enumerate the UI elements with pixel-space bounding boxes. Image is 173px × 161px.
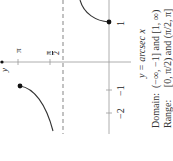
half-pi-denominator: 2 [53, 51, 60, 55]
tick-neg1-label: −1 [116, 85, 126, 96]
tick-neg2-label: −2 [116, 108, 126, 119]
caption-domain-value: (−∞, −1] and [1, ∞) [150, 10, 161, 88]
caption-range: Range: [0, π/2) and (π/2, π] [163, 9, 173, 128]
caption-function: y = arcsec x [137, 29, 147, 78]
caption-domain: Domain: (−∞, −1] and [1, ∞) [151, 10, 161, 128]
point-1-0 [107, 20, 112, 25]
caption-range-label: Range: [162, 100, 173, 128]
y-axis-label: y [0, 68, 9, 72]
arcsec-graph-figure: y π π2 1 −1 −2 y = arcsec x Domain: (−∞,… [0, 0, 173, 161]
point-neg1-pi [18, 84, 23, 89]
curve-left-branch [20, 86, 53, 131]
y-axis-arrow-icon [0, 60, 3, 63]
tick-1-label: 1 [116, 21, 126, 26]
half-pi-numerator: π [45, 51, 52, 55]
graph-canvas [0, 0, 173, 161]
caption-domain-label: Domain: [150, 93, 161, 128]
pi-label: π [14, 48, 23, 53]
caption-range-value: [0, π/2) and (π/2, π] [162, 9, 173, 87]
curve-right-branch [80, 0, 109, 22]
half-pi-label: π2 [43, 51, 60, 55]
